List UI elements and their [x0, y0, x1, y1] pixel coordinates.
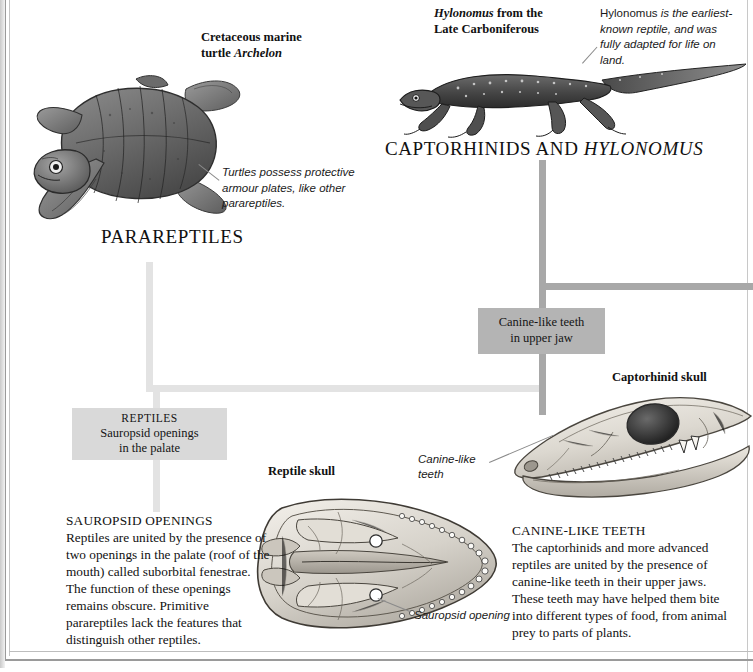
- branch-parareptiles-vertical: [146, 262, 153, 392]
- captorhinid-skull-illustration: [503, 388, 753, 503]
- node-canine-like-teeth[interactable]: Canine-like teeth in upper jaw: [478, 308, 605, 354]
- canine-heading: CANINE-LIKE TEETH: [512, 522, 740, 539]
- sauropsid-callout-text: Sauropsid opening: [414, 609, 510, 621]
- sauropsid-heading: SAUROPSID OPENINGS: [66, 512, 271, 529]
- reptile-skull-title: Reptile skull: [268, 464, 408, 480]
- archelon-figure-title: Cretaceous marine turtle Archelon: [201, 30, 381, 61]
- node-reptiles-caption: REPTILES: [121, 411, 177, 425]
- captorhinid-skull-title: Captorhinid skull: [612, 370, 753, 386]
- branch-to-right-edge: [539, 283, 753, 290]
- node-reptiles[interactable]: REPTILES Sauropsid openings in the palat…: [72, 408, 227, 460]
- heading-parareptiles: PARAREPTILES: [101, 226, 244, 248]
- branch-reptiles-to-text: [153, 460, 160, 512]
- archelon-title-line1: Cretaceous marine: [201, 30, 302, 44]
- page-border-left-inner: [9, 0, 10, 656]
- archelon-title-line2-plain: turtle: [201, 46, 234, 60]
- archelon-title-line2-italic: Archelon: [234, 46, 282, 60]
- archelon-annotation: Turtles possess protective armour plates…: [222, 165, 362, 212]
- heading-captorhinids-italic: HYLONOMUS: [584, 138, 703, 159]
- captorhinid-skull-callout: Canine-like teeth: [418, 452, 488, 482]
- hylonomus-annotation-genus: Hylonomus: [600, 7, 658, 19]
- text-block-sauropsid: SAUROPSID OPENINGS Reptiles are united b…: [66, 512, 271, 648]
- branch-parareptiles-elbow: [146, 385, 546, 392]
- page-border-left-outer: [5, 0, 6, 660]
- node-canine-line1: Canine-like teeth: [499, 315, 585, 331]
- page-border-bottom-outer: [5, 659, 753, 661]
- hylonomus-annotation: Hylonomus is the earliest-known reptile,…: [600, 6, 736, 68]
- captorhinid-callout-text: Canine-like teeth: [418, 453, 476, 480]
- page-edge-shadow: [0, 0, 5, 668]
- hylonomus-figure-title: Hylonomus from the Late Carboniferous: [434, 6, 604, 37]
- hylonomus-title-plain: from the: [494, 6, 543, 20]
- heading-captorhinids: CAPTORHINIDS AND HYLONOMUS: [385, 138, 703, 160]
- hylonomus-title-italic: Hylonomus: [434, 6, 494, 20]
- node-canine-line2: in upper jaw: [510, 331, 572, 347]
- sauropsid-body: Reptiles are united by the presence of t…: [66, 529, 271, 648]
- book-page: Cretaceous marine turtle Archelon Turtle…: [0, 0, 753, 672]
- node-reptiles-line1: Sauropsid openings: [100, 426, 198, 442]
- canine-body: The captorhinids and more advanced repti…: [512, 539, 740, 641]
- archelon-illustration: [18, 55, 248, 220]
- page-border-bottom-inner: [9, 651, 753, 652]
- sauropsid-opening-callout: Sauropsid opening: [414, 608, 514, 623]
- heading-captorhinids-plain: CAPTORHINIDS AND: [385, 138, 584, 159]
- text-block-canine: CANINE-LIKE TEETH The captorhinids and m…: [512, 522, 740, 641]
- node-reptiles-line2: in the palate: [119, 441, 180, 457]
- hylonomus-title-line2: Late Carboniferous: [434, 22, 539, 36]
